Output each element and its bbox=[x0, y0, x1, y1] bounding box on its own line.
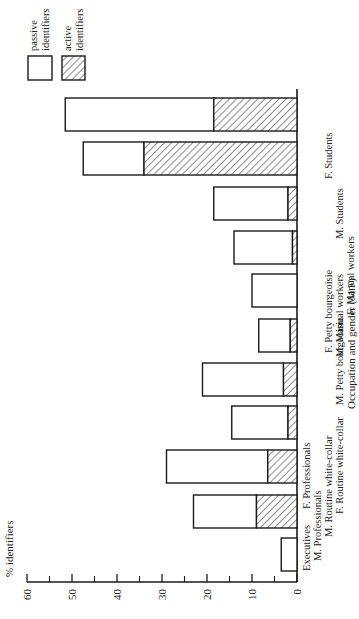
bar-passive bbox=[281, 538, 297, 571]
bar-passive bbox=[65, 98, 214, 131]
legend-label-active-1: active bbox=[62, 26, 73, 51]
chart-stage: % identifiers 0102030405060 Executives M… bbox=[0, 0, 359, 619]
bar-group bbox=[194, 495, 298, 528]
tick-label: 20 bbox=[201, 589, 213, 601]
bar-group bbox=[252, 274, 297, 307]
bar-passive bbox=[167, 450, 268, 483]
tick-label: 10 bbox=[246, 589, 258, 601]
bar-active bbox=[257, 495, 298, 528]
bar-group bbox=[214, 187, 297, 220]
category-label-executives: Executives bbox=[301, 525, 312, 571]
tick-label: 60 bbox=[21, 589, 33, 601]
bar-active bbox=[288, 187, 297, 220]
bar-passive bbox=[214, 187, 288, 220]
category-label-f-students: F. Students bbox=[323, 133, 334, 179]
bar-group bbox=[234, 231, 297, 264]
value-axis: 0102030405060 bbox=[21, 574, 303, 600]
bar-passive bbox=[259, 319, 291, 352]
category-label-f-routine-white-collar: F. Routine white-collar bbox=[334, 417, 345, 514]
bar-active bbox=[268, 450, 297, 483]
tick-label: 50 bbox=[66, 589, 78, 601]
tick-label: 0 bbox=[291, 589, 303, 595]
legend-item-passive: passive identifiers bbox=[28, 8, 52, 80]
y-axis-title: % identifiers bbox=[3, 520, 15, 577]
bar-active bbox=[293, 231, 298, 264]
stacked-bar-chart: % identifiers 0102030405060 Executives M… bbox=[0, 0, 359, 619]
legend-label-active-2: identifiers bbox=[74, 8, 85, 51]
bar-group bbox=[83, 142, 297, 175]
bar-active bbox=[290, 319, 297, 352]
bar-passive bbox=[252, 274, 297, 307]
bar-passive bbox=[234, 231, 293, 264]
category-label-m-manual-workers: M. Manual workers bbox=[334, 274, 345, 357]
category-label-m-routine-white-collar: M. Routine white-collar bbox=[323, 435, 334, 537]
x-axis-title: Occupation and gender (M.F) bbox=[345, 278, 358, 409]
legend-swatch-active bbox=[62, 56, 85, 80]
bar-active bbox=[284, 363, 298, 396]
bar-passive bbox=[203, 363, 284, 396]
bar-active bbox=[214, 98, 297, 131]
bar-active bbox=[144, 142, 297, 175]
legend-item-active: active identifiers bbox=[62, 8, 85, 80]
bars bbox=[65, 98, 297, 571]
bar-passive bbox=[194, 495, 257, 528]
legend-swatch-passive bbox=[28, 56, 52, 80]
category-label-m-professionals: M. Professionals bbox=[312, 490, 323, 561]
bar-group bbox=[232, 406, 297, 439]
bar-active bbox=[288, 406, 297, 439]
bar-group bbox=[259, 319, 297, 352]
bar-group bbox=[167, 450, 298, 483]
tick-label: 40 bbox=[111, 589, 123, 601]
category-label-m-students: M. Students bbox=[334, 188, 345, 239]
bar-passive bbox=[232, 406, 288, 439]
bar-passive bbox=[83, 142, 144, 175]
legend: passive identifiers active identifiers bbox=[28, 8, 85, 80]
bar-group bbox=[203, 363, 298, 396]
category-label-f-petty-bourgeoisie: F. Petty bourgeoisie bbox=[323, 269, 334, 353]
bar-group bbox=[281, 538, 297, 571]
category-label-f-professionals: F. Professionals bbox=[301, 443, 312, 509]
legend-label-passive-1: passive bbox=[28, 20, 39, 51]
tick-label: 30 bbox=[156, 589, 168, 601]
bar-group bbox=[65, 98, 297, 131]
legend-label-passive-2: identifiers bbox=[40, 8, 51, 51]
